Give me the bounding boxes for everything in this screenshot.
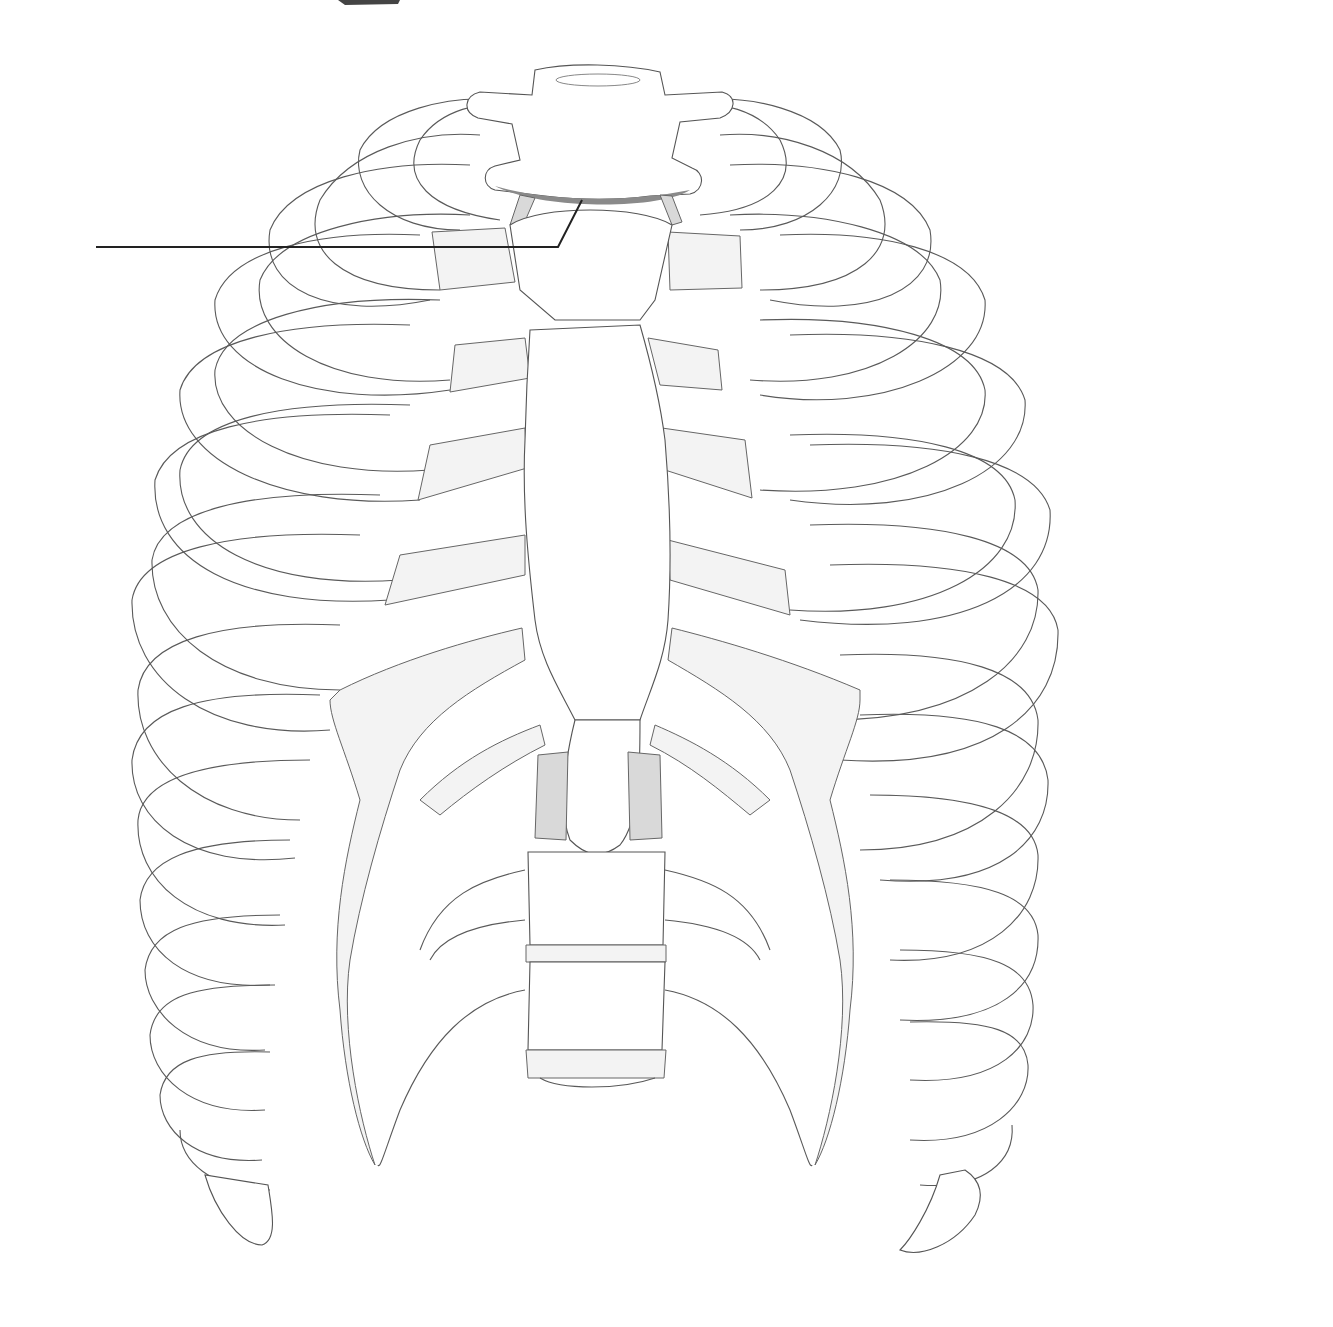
- first-thoracic-vertebra: [467, 65, 733, 228]
- leader-lines: [0, 0, 582, 247]
- rib-cage-diagram: [0, 0, 1333, 1327]
- cropped-mark: [338, 0, 400, 5]
